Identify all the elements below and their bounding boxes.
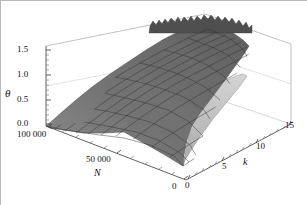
x-axis-title-N: N: [94, 168, 101, 178]
y-axis-title-k: k: [243, 157, 247, 167]
x-tick-100000: 100 000: [17, 130, 46, 139]
plot-canvas: [0, 0, 307, 205]
z-tick-1-0: 1.0: [17, 70, 28, 79]
surface-3d: [46, 15, 252, 166]
y-tick-10: 10: [256, 142, 265, 151]
z-axis-ticks: [46, 50, 51, 124]
x-tick-0: 0: [172, 182, 177, 191]
z-axis-minor-ticks: [46, 55, 49, 120]
y-tick-15: 15: [285, 121, 294, 130]
z-axis-title-theta: θ: [5, 88, 10, 98]
x-tick-50000: 50 000: [86, 155, 111, 164]
surface-ridge-jagged: [149, 15, 252, 33]
z-tick-1-5: 1.5: [17, 45, 28, 54]
z-tick-0-0: 0.0: [17, 119, 28, 128]
y-tick-0: 0: [185, 181, 190, 190]
y-tick-5: 5: [222, 162, 227, 171]
surface-plot-figure: 1.5 1.0 0.5 0.0 θ 100 000 50 000 0 N 0 5…: [0, 0, 307, 205]
z-tick-0-5: 0.5: [17, 95, 28, 104]
